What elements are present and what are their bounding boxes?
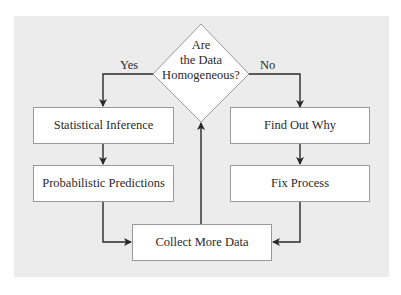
decision-line-3: Homogeneous? [153, 68, 249, 83]
node-collect-more-data: Collect More Data [132, 224, 272, 261]
node-fix-process: Fix Process [230, 165, 370, 202]
no-connector [249, 74, 300, 107]
fix-to-collect-connector [273, 202, 300, 242]
decision-line-2: the Data [153, 53, 249, 68]
decision-label: Are the Data Homogeneous? [153, 38, 249, 83]
predictions-to-collect-connector [103, 202, 131, 242]
node-statistical-inference: Statistical Inference [33, 107, 174, 144]
no-label: No [260, 58, 275, 73]
node-find-out-why: Find Out Why [230, 107, 370, 144]
yes-label: Yes [120, 58, 138, 73]
decision-line-1: Are [153, 38, 249, 53]
node-probabilistic-predictions: Probabilistic Predictions [33, 165, 174, 202]
yes-connector [103, 74, 153, 106]
